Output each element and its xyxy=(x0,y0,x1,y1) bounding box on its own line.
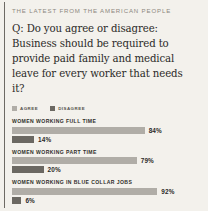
kicker-header: THE LATEST FROM THE AMERICAN PEOPLE xyxy=(12,7,204,14)
bar-row-agree: 79% xyxy=(12,157,204,164)
legend-label-disagree: DISAGREE xyxy=(58,106,85,111)
legend-swatch-disagree xyxy=(50,106,55,111)
bar-group-label: WOMEN WORKING PART TIME xyxy=(12,149,204,155)
bar-disagree xyxy=(12,197,21,204)
bar-row-disagree: 20% xyxy=(12,166,204,173)
bar-disagree xyxy=(12,166,44,173)
card-content: THE LATEST FROM THE AMERICAN PEOPLE Q: D… xyxy=(12,0,204,211)
legend-item-disagree: DISAGREE xyxy=(50,106,85,111)
bar-agree xyxy=(12,188,157,195)
left-vertical-rule xyxy=(4,2,5,208)
bar-value-agree: 92% xyxy=(161,188,174,195)
chart-legend: AGREE DISAGREE xyxy=(12,104,204,112)
bar-row-agree: 84% xyxy=(12,127,204,134)
bar-value-disagree: 20% xyxy=(48,166,61,173)
bar-disagree xyxy=(12,136,34,143)
bar-row-agree: 92% xyxy=(12,188,204,195)
bar-agree xyxy=(12,127,145,134)
bar-group: WOMEN WORKING FULL TIME 84% 14% xyxy=(12,118,204,143)
bar-group: WOMEN WORKING PART TIME 79% 20% xyxy=(12,149,204,174)
legend-label-agree: AGREE xyxy=(20,106,38,111)
bar-value-disagree: 14% xyxy=(38,136,51,143)
bar-value-disagree: 6% xyxy=(25,197,34,204)
bar-row-disagree: 6% xyxy=(12,197,204,204)
bar-group-label: WOMEN WORKING FULL TIME xyxy=(12,118,204,124)
infographic-card: THE LATEST FROM THE AMERICAN PEOPLE Q: D… xyxy=(0,0,208,211)
bar-group-label: WOMEN WORKING IN BLUE COLLAR JOBS xyxy=(12,179,204,185)
bar-agree xyxy=(12,157,137,164)
legend-item-agree: AGREE xyxy=(12,106,38,111)
legend-swatch-agree xyxy=(12,106,17,111)
bar-value-agree: 79% xyxy=(141,157,154,164)
bar-row-disagree: 14% xyxy=(12,136,204,143)
bar-group: WOMEN WORKING IN BLUE COLLAR JOBS 92% 6% xyxy=(12,179,204,204)
poll-question: Q: Do you agree or disagree: Business sh… xyxy=(12,21,198,96)
bar-value-agree: 84% xyxy=(149,127,162,134)
